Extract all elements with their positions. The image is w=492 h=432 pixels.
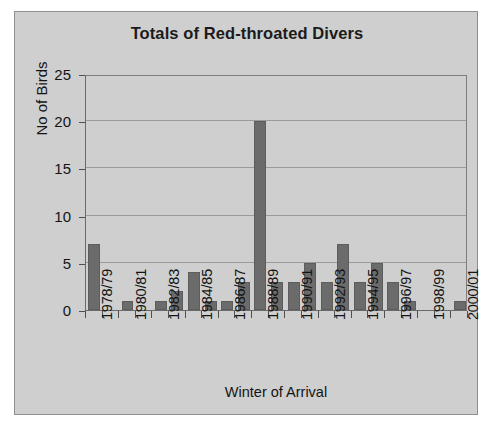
x-axis-title: Winter of Arrival	[85, 384, 467, 400]
bar	[155, 301, 167, 310]
chart-title: Totals of Red-throated Divers	[15, 24, 479, 43]
x-axis-tick-label: 1988/89	[265, 269, 281, 320]
x-axis-tick-mark	[218, 311, 219, 318]
y-axis-tick-label: 15	[11, 161, 71, 176]
x-axis-tick-mark	[185, 311, 186, 318]
bar	[454, 301, 466, 310]
y-axis-tick-label: 25	[11, 67, 71, 82]
x-axis-tick-mark	[318, 311, 319, 318]
y-axis-tick-label: 10	[11, 209, 71, 224]
x-axis-tick-label: 2000/01	[465, 269, 481, 320]
x-axis-tick-label: 1996/97	[398, 269, 414, 320]
x-axis-tick-label: 1980/81	[133, 269, 149, 320]
x-axis-tick-mark	[85, 311, 86, 318]
x-axis-tick-label: 1990/91	[299, 269, 315, 320]
bar	[122, 301, 134, 310]
chart-container: Totals of Red-throated Divers No of Bird…	[14, 11, 478, 415]
y-axis-tick-label: 20	[11, 114, 71, 129]
bar	[288, 282, 300, 310]
x-axis-tick-mark	[384, 311, 385, 318]
x-axis-tick-label: 1984/85	[199, 269, 215, 320]
x-axis-tick-mark	[118, 311, 119, 318]
x-axis-tick-label: 1992/93	[332, 269, 348, 320]
y-axis-tick-label: 5	[11, 256, 71, 271]
bar	[321, 282, 333, 310]
x-axis-tick-label: 1986/87	[232, 269, 248, 320]
x-axis-tick-label: 1994/95	[365, 269, 381, 320]
x-axis-tick-label: 1982/83	[166, 269, 182, 320]
x-axis-tick-label: 1998/99	[431, 269, 447, 320]
x-axis-tick-mark	[284, 311, 285, 318]
x-axis-tick-mark	[251, 311, 252, 318]
x-axis-tick-mark	[351, 311, 352, 318]
x-axis-tick-mark	[151, 311, 152, 318]
x-axis-tick-mark	[450, 311, 451, 318]
x-axis-tick-mark	[417, 311, 418, 318]
x-axis-tick-label: 1978/79	[99, 269, 115, 320]
y-axis-tick-label: 0	[11, 303, 71, 318]
y-axis-title: No of Birds	[33, 29, 50, 169]
